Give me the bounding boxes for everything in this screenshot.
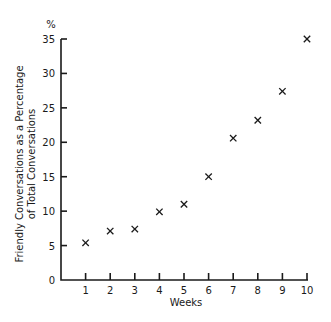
data-point-x-marker — [107, 228, 113, 234]
x-axis-label: Weeks — [170, 297, 203, 308]
x-tick-label: 6 — [205, 285, 211, 296]
y-tick-label: 25 — [42, 103, 55, 114]
data-point-x-marker — [82, 240, 88, 246]
axes — [61, 39, 308, 280]
x-tick-label: 2 — [107, 285, 113, 296]
y-tick-label: 10 — [42, 206, 55, 217]
y-axis-label-line-1: Friendly Conversations as a Percentage — [14, 65, 25, 262]
x-tick-label: 9 — [279, 285, 285, 296]
x-ticks: 12345678910 — [82, 273, 313, 296]
y-tick-label: 15 — [42, 172, 55, 183]
data-point-x-marker — [181, 201, 187, 207]
data-points — [82, 36, 310, 246]
x-tick-label: 7 — [230, 285, 236, 296]
data-point-x-marker — [255, 117, 261, 123]
x-tick-label: 5 — [181, 285, 187, 296]
x-tick-label: 8 — [255, 285, 261, 296]
y-axis-label: Friendly Conversations as a Percentage o… — [14, 65, 37, 262]
data-point-x-marker — [156, 209, 162, 215]
x-tick-label: 1 — [82, 285, 88, 296]
data-point-x-marker — [279, 88, 285, 94]
y-tick-label: 30 — [42, 68, 55, 79]
y-tick-label: 35 — [42, 34, 55, 45]
x-tick-label: 10 — [301, 285, 314, 296]
data-point-x-marker — [132, 226, 138, 232]
y-tick-label: 5 — [49, 241, 55, 252]
y-axis-label-line-2: of Total Conversations — [26, 109, 37, 220]
scatter-chart: Friendly Conversations as a Percentage o… — [0, 0, 331, 322]
y-tick-label: 20 — [42, 137, 55, 148]
data-point-x-marker — [205, 174, 211, 180]
y-ticks: 05101520253035 — [42, 34, 67, 286]
y-unit-label: % — [46, 19, 56, 30]
x-tick-label: 4 — [156, 285, 162, 296]
y-tick-label: 0 — [49, 275, 55, 286]
data-point-x-marker — [304, 36, 310, 42]
data-point-x-marker — [230, 135, 236, 141]
x-tick-label: 3 — [132, 285, 138, 296]
